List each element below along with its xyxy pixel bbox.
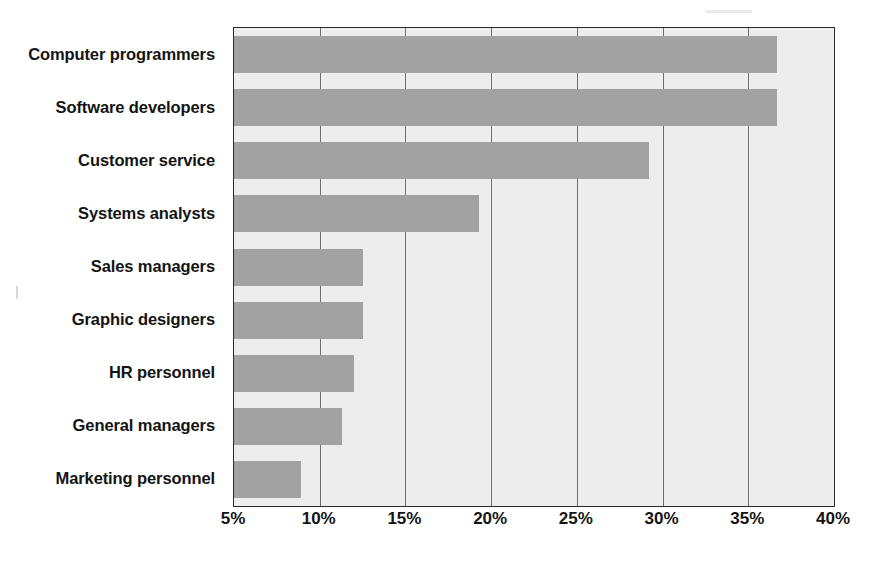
bar — [234, 408, 342, 445]
category-label: Graphic designers — [72, 311, 215, 328]
value-tick-label: 20% — [473, 510, 507, 527]
value-tick-label: 15% — [387, 510, 421, 527]
value-tick-label: 25% — [559, 510, 593, 527]
bar — [234, 249, 363, 286]
category-label: HR personnel — [109, 364, 215, 381]
bar — [234, 36, 777, 73]
bar-chart-figure: Computer programmersSoftware developersC… — [0, 0, 893, 568]
bar — [234, 89, 777, 126]
value-axis: 5%10%15%20%25%30%35%40% — [233, 510, 833, 544]
bar — [234, 142, 649, 179]
value-tick-label: 5% — [221, 510, 246, 527]
category-label: Systems analysts — [78, 205, 215, 222]
category-axis: Computer programmersSoftware developersC… — [0, 27, 225, 505]
value-tick-label: 35% — [730, 510, 764, 527]
category-label: Sales managers — [91, 258, 215, 275]
bar — [234, 302, 363, 339]
value-tick-label: 30% — [645, 510, 679, 527]
bar — [234, 461, 301, 498]
category-label: Marketing personnel — [56, 470, 215, 487]
plot-inner — [234, 28, 834, 506]
bar — [234, 195, 479, 232]
plot-area — [233, 27, 835, 507]
bar — [234, 355, 354, 392]
value-tick-label: 10% — [302, 510, 336, 527]
category-label: Customer service — [78, 152, 215, 169]
value-tick-label: 40% — [816, 510, 850, 527]
category-label: Software developers — [56, 98, 216, 115]
category-label: Computer programmers — [28, 45, 215, 62]
scan-artifact — [706, 10, 752, 13]
category-label: General managers — [73, 417, 215, 434]
